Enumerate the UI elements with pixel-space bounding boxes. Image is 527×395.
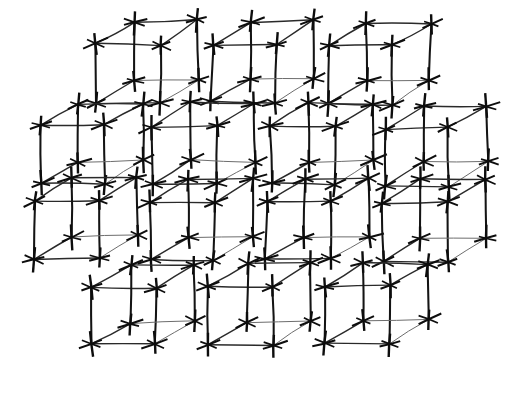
atom-arm <box>149 190 150 213</box>
cell-edge <box>268 201 331 202</box>
crystal-lattice-figure <box>0 0 527 395</box>
atom-arm <box>488 148 489 171</box>
cell-edge <box>386 186 449 187</box>
cell-edge <box>270 126 336 127</box>
cell-edge <box>78 104 143 105</box>
atom-arm <box>154 331 155 354</box>
cell-edge <box>424 106 486 107</box>
atom-arm <box>151 250 152 272</box>
cell-edge <box>134 80 199 81</box>
cell-edge <box>41 125 104 126</box>
lattice-canvas <box>0 0 527 395</box>
cell-edge <box>420 179 485 180</box>
cell-edge <box>424 161 488 162</box>
atom-arm <box>134 11 135 35</box>
atom-arm <box>272 170 273 192</box>
cell-edge <box>249 263 311 264</box>
cell-edge <box>214 45 277 46</box>
cell-edge <box>153 184 217 185</box>
atom-arm <box>188 170 189 192</box>
cell-edge <box>208 345 274 346</box>
cell-edge <box>35 201 99 202</box>
cell-edge <box>325 343 390 344</box>
